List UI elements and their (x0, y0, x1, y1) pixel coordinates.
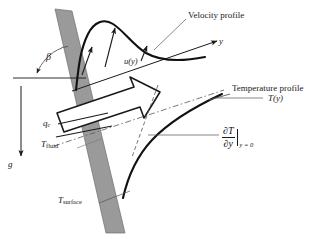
temperature-profile-label: Temperature profile (232, 84, 304, 93)
velocity-profile-label: Velocity profile (188, 11, 244, 20)
gradient-numerator: ∂T (222, 126, 235, 137)
y-axis-label: y (219, 37, 223, 46)
velocity-label-leader (154, 19, 186, 50)
evaluation-bar (237, 129, 238, 146)
temperature-function-label: T(y) (268, 94, 283, 103)
surface-temp-subscript: surface (63, 198, 82, 205)
gradient-denominator: ∂y (223, 139, 234, 150)
temperature-profile-curve (123, 94, 222, 198)
beta-angle-label: β (46, 52, 51, 62)
velocity-profile-curve (76, 21, 205, 90)
gravity-label: g (8, 160, 13, 169)
heat-flux-subscript: c (48, 121, 51, 128)
surface-temp-label: Tsurface (58, 196, 82, 206)
heat-flux-label: qc (43, 119, 50, 129)
fluid-temp-label: Tfluid (41, 140, 58, 150)
gradient-condition: y = 0 (240, 141, 254, 149)
velocity-function-label: u(y) (124, 57, 138, 66)
fluid-temp-subscript: fluid (46, 142, 58, 149)
velocity-vector-arrows (82, 28, 147, 75)
natural-convection-diagram: Velocity profile y u(y) β Temperature pr… (0, 0, 331, 239)
beta-angle-arc (37, 47, 68, 74)
gradient-fraction: ∂T ∂y (222, 126, 235, 149)
temperature-gradient-label: ∂T ∂y y = 0 (222, 126, 253, 149)
